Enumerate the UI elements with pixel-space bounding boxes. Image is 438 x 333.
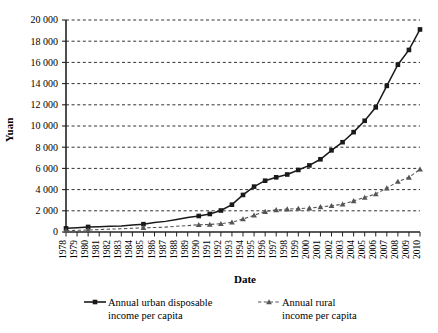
data-point-marker — [306, 205, 312, 210]
x-tick-label: 1979 — [69, 240, 79, 259]
data-point-marker — [307, 163, 312, 168]
data-point-marker — [418, 27, 423, 32]
legend-label-line2: income per capita — [282, 310, 357, 321]
data-point-marker — [240, 216, 246, 221]
x-tick-label: 2001 — [312, 240, 322, 259]
legend-label-line2: income per capita — [108, 310, 183, 321]
x-tick-label: 2006 — [368, 240, 378, 259]
y-tick-label: 14 000 — [31, 78, 59, 89]
x-tick-label: 1989 — [180, 240, 190, 259]
data-point-marker — [208, 212, 213, 217]
x-tick-label: 1999 — [290, 240, 300, 259]
data-point-marker — [373, 105, 378, 110]
data-point-marker — [230, 202, 235, 207]
series-urban — [64, 27, 423, 231]
x-tick-label: 1981 — [91, 240, 101, 259]
legend-label-line1: Annual urban disposable — [108, 297, 213, 308]
data-point-marker — [329, 148, 334, 153]
legend-item-urban[interactable]: Annual urban disposableincome per capita — [84, 297, 213, 321]
y-tick-label: 18 000 — [31, 36, 59, 47]
data-point-marker — [241, 193, 246, 198]
y-tick-label: 4 000 — [36, 184, 59, 195]
x-tick-label: 1988 — [169, 240, 179, 259]
series-line — [66, 29, 420, 228]
gridlines — [66, 20, 420, 211]
data-point-marker — [396, 62, 401, 67]
series-rural — [63, 166, 423, 232]
x-tick-label: 1995 — [246, 240, 256, 259]
x-tick-label: 2010 — [412, 240, 422, 259]
x-tick-label: 1998 — [279, 240, 289, 259]
x-tick-label: 1996 — [257, 240, 267, 259]
data-point-marker — [362, 118, 367, 123]
y-tick-label: 16 000 — [31, 57, 59, 68]
y-axis-title: Yuan — [3, 118, 15, 143]
x-tick-label: 1987 — [158, 240, 168, 259]
x-tick-label: 2009 — [401, 240, 411, 259]
data-point-marker — [395, 179, 401, 184]
x-axis-title: Date — [234, 273, 256, 285]
data-point-marker — [219, 208, 224, 213]
x-tick-label: 1982 — [102, 240, 112, 259]
data-point-marker — [407, 48, 412, 53]
x-tick-label: 2007 — [379, 240, 389, 259]
data-point-marker — [274, 175, 279, 180]
data-point-marker — [406, 175, 412, 180]
y-tick-label: 8 000 — [36, 142, 59, 153]
x-tick-label: 1990 — [191, 240, 201, 259]
chart-legend: Annual urban disposableincome per capita… — [84, 297, 357, 321]
data-point-marker — [196, 214, 201, 219]
data-point-marker — [417, 166, 423, 171]
y-tick-label: 6 000 — [36, 163, 59, 174]
data-point-marker — [296, 168, 301, 173]
data-point-marker — [263, 178, 268, 183]
x-tick-label: 1980 — [80, 240, 90, 259]
data-series — [63, 27, 423, 233]
data-point-marker — [373, 191, 379, 196]
data-point-marker — [273, 207, 279, 212]
y-tick-label: 20 000 — [31, 14, 59, 25]
x-tick-label: 1992 — [213, 240, 223, 259]
x-tick-label: 2000 — [301, 240, 311, 259]
data-point-marker — [318, 204, 324, 209]
x-tick-label: 2008 — [390, 240, 400, 259]
data-point-marker — [252, 184, 257, 189]
x-tick-label: 2005 — [357, 240, 367, 259]
data-point-marker — [340, 140, 345, 145]
data-point-marker — [285, 172, 290, 177]
x-tick-label: 2003 — [335, 240, 345, 259]
y-tick-label: 12 000 — [31, 99, 59, 110]
chart-figure: 02 0004 0006 0008 00010 00012 00014 0001… — [0, 0, 438, 333]
legend-label-line1: Annual rural — [282, 297, 335, 308]
x-tick-label: 1994 — [235, 240, 245, 259]
x-tick-label: 1984 — [124, 240, 134, 259]
data-point-marker — [384, 185, 390, 190]
legend-item-rural[interactable]: Annual ruralincome per capita — [258, 297, 357, 321]
data-point-marker — [351, 130, 356, 135]
line-chart: 02 0004 0006 0008 00010 00012 00014 0001… — [0, 0, 438, 333]
legend-marker-swatch — [93, 300, 98, 305]
x-tick-label: 1986 — [147, 240, 157, 259]
series-line — [66, 169, 420, 230]
x-tick-label: 1978 — [58, 240, 68, 259]
x-axis: 1978197919801981198219831984198519861987… — [58, 232, 422, 259]
x-tick-label: 2002 — [324, 240, 334, 259]
y-tick-label: 2 000 — [36, 205, 59, 216]
x-tick-label: 1997 — [268, 240, 278, 259]
y-axis: 02 0004 0006 0008 00010 00012 00014 0001… — [31, 14, 67, 237]
data-point-marker — [318, 157, 323, 162]
y-tick-label: 10 000 — [31, 120, 59, 131]
x-tick-label: 1993 — [224, 240, 234, 259]
x-tick-label: 1985 — [135, 240, 145, 259]
y-tick-label: 0 — [53, 226, 58, 237]
x-tick-label: 2004 — [346, 240, 356, 259]
x-tick-label: 1983 — [113, 240, 123, 259]
data-point-marker — [385, 84, 390, 89]
x-tick-label: 1991 — [202, 240, 212, 259]
